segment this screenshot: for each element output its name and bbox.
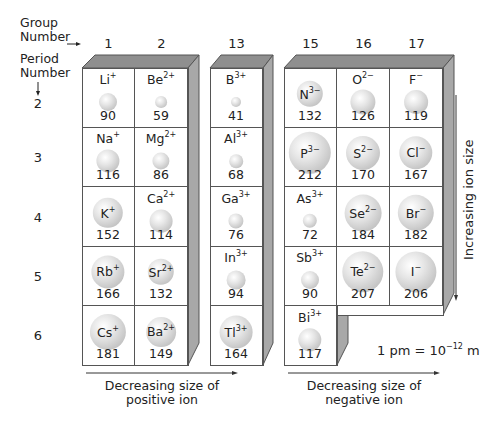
ion-sphere-icon: S2− — [346, 136, 380, 170]
ion-sphere-icon: N3− — [297, 81, 323, 107]
ion-symbol: Ga — [221, 191, 238, 206]
ion-radius-value: 114 — [135, 227, 187, 242]
ion-symbol: Tl — [225, 324, 236, 339]
ion-radius-value: 212 — [284, 167, 336, 182]
ion-charge: 2+ — [163, 323, 175, 332]
ion-charge: 2+ — [164, 130, 176, 139]
period-label-line1: Period — [20, 52, 70, 66]
ion-cell-al: Al3+68 — [210, 127, 263, 187]
ion-charge: 2− — [365, 204, 377, 213]
ion-sphere-icon: Tl3+ — [220, 316, 253, 349]
ion-cell-rb: Rb+166 — [82, 246, 135, 306]
group-number-16: 16 — [337, 36, 390, 51]
unit-note-prefix: 1 pm = 10 — [377, 343, 446, 358]
unit-note-suffix: m — [463, 343, 480, 358]
ion-cell-be: Be2+59 — [135, 68, 188, 128]
ion-cell-as: As3+72 — [284, 187, 337, 247]
increasing-ion-size-label: Increasing ion size — [462, 140, 476, 260]
ion-symbol: Be — [147, 72, 163, 87]
period-number-4: 4 — [31, 210, 45, 225]
ion-cell-bi: Bi3+117 — [284, 306, 337, 366]
ion-symbol: Cs — [97, 325, 112, 340]
group-number-1: 1 — [82, 36, 135, 51]
ion-radius-value: 126 — [337, 108, 389, 123]
negative-label-line2: negative ion — [288, 393, 440, 407]
ion-sphere-icon: K+ — [93, 198, 123, 228]
ion-cell-cl: Cl−167 — [390, 127, 443, 187]
ion-cell-br: Br−182 — [390, 187, 443, 247]
ion-charge: 3+ — [312, 190, 324, 199]
ion-radius-value: 68 — [210, 167, 262, 182]
ion-charge: 3+ — [239, 190, 251, 199]
ion-charge: 2− — [362, 71, 374, 80]
ion-symbol: Ba — [147, 324, 163, 339]
ion-symbol: Bi — [298, 310, 310, 325]
ion-radius-value: 184 — [337, 227, 389, 242]
ion-radius-value: 152 — [82, 227, 134, 242]
ion-charge: + — [109, 204, 116, 213]
ion-charge: − — [414, 264, 421, 273]
ion-symbol: N — [299, 86, 308, 101]
negative-ion-trend-label: Decreasing size of negative ion — [288, 379, 440, 407]
ion-charge: 2− — [361, 145, 373, 154]
ion-radius-value: 132 — [284, 108, 336, 123]
ion-charge: 3+ — [234, 71, 246, 80]
positive-label-line1: Decreasing size of — [86, 379, 238, 393]
ion-radius-value: 132 — [135, 286, 187, 301]
ion-charge: + — [113, 130, 120, 139]
ion-cell-f: F−119 — [390, 68, 443, 128]
ion-symbol: Sb — [296, 250, 312, 265]
positive-label-line2: positive ion — [86, 393, 238, 407]
ion-cell-na: Na+116 — [82, 127, 135, 187]
period-number-6: 6 — [31, 328, 45, 343]
ion-cell-sb: Sb3+90 — [284, 246, 337, 306]
ion-cell-ga: Ga3+76 — [210, 187, 263, 247]
ion-symbol: Se — [349, 205, 365, 220]
ion-cell-s: S2−170 — [337, 127, 390, 187]
ion-cell-cs: Cs+181 — [82, 306, 135, 366]
period-number-3: 3 — [31, 150, 45, 165]
ion-radius-value: 181 — [82, 346, 134, 361]
ion-charge: − — [420, 204, 427, 213]
ion-radius-value: 206 — [390, 286, 442, 301]
ion-symbol: Ca — [147, 191, 163, 206]
negative-label-line1: Decreasing size of — [288, 379, 440, 393]
unit-note: 1 pm = 10−12 m — [377, 344, 480, 358]
group-number-label: Group Number — [20, 16, 70, 44]
ion-radius-value: 119 — [390, 108, 442, 123]
ion-charge: 3+ — [236, 323, 248, 332]
ion-cell-te: Te2−207 — [337, 246, 390, 306]
ion-radius-value: 41 — [210, 108, 262, 123]
period-number-label: Period Number — [20, 52, 70, 80]
ion-radius-value: 166 — [82, 286, 134, 301]
ion-charge: 3+ — [310, 309, 322, 318]
ion-cell-p: P3−212 — [284, 127, 337, 187]
ion-radius-value: 149 — [135, 346, 187, 361]
ion-radius-value: 59 — [135, 108, 187, 123]
ion-symbol: Li — [99, 72, 109, 87]
ion-symbol: As — [297, 191, 312, 206]
ion-radius-value: 164 — [210, 346, 262, 361]
ion-radius-value: 72 — [284, 227, 336, 242]
ion-sphere-icon: Ba2+ — [146, 317, 176, 347]
ion-cell-sr: Sr2+132 — [135, 246, 188, 306]
ion-radius-value: 86 — [135, 167, 187, 182]
ion-charge: 3+ — [236, 130, 248, 139]
ion-symbol: Mg — [146, 131, 165, 146]
positive-ion-trend-label: Decreasing size of positive ion — [86, 379, 238, 407]
ion-charge: 2+ — [162, 263, 174, 272]
ion-symbol: O — [352, 72, 362, 87]
ion-cell-ba: Ba2+149 — [135, 306, 188, 366]
ion-charge: + — [112, 324, 119, 333]
ion-radius-value: 182 — [390, 227, 442, 242]
ion-sphere-icon — [231, 97, 241, 107]
ion-symbol: Rb — [96, 265, 113, 280]
group-label-line2: Number — [20, 30, 70, 44]
unit-note-exponent: −12 — [446, 342, 463, 351]
ion-sphere-icon: Rb+ — [91, 255, 124, 288]
group-number-15: 15 — [284, 36, 337, 51]
ion-symbol: P — [300, 145, 308, 160]
ion-symbol: Na — [96, 131, 113, 146]
ion-cell-li: Li+90 — [82, 68, 135, 128]
ion-radius-value: 116 — [82, 167, 134, 182]
